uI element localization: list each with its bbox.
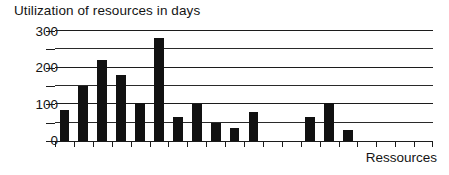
x-axis-ticks [55,142,433,147]
bar [135,103,145,142]
x-axis-tick [168,142,169,147]
x-axis-tick [414,142,415,147]
bar [154,38,164,141]
x-axis-tick [301,142,302,147]
y-axis-tick-stub-50 [46,123,55,124]
bar-series [55,31,433,141]
plot-area [55,31,433,141]
bar [173,117,183,141]
bar [343,130,353,141]
bar [249,112,259,141]
x-axis-tick [282,142,283,147]
x-axis-tick [432,142,433,147]
x-axis-tick [150,142,151,147]
y-axis-tick-stub-150 [46,86,55,87]
x-axis-tick [187,142,188,147]
bar [192,104,202,141]
x-axis-tick [357,142,358,147]
y-axis-tick-stub-100 [46,104,55,105]
y-axis-tick-stub-0 [46,141,55,142]
x-axis-tick [131,142,132,147]
x-axis-tick [93,142,94,147]
x-axis-tick [55,142,56,147]
bar-chart-figure: Utilization of resources in days 300 200… [0,0,449,175]
bar [305,117,315,141]
page-title: Utilization of resources in days [14,3,200,18]
bar [211,123,221,141]
x-axis-tick [74,142,75,147]
x-axis-tick [376,142,377,147]
bar [324,103,334,142]
x-axis-tick [339,142,340,147]
bar [116,75,126,141]
y-axis-tick-stub-300 [46,31,55,32]
y-axis-tick-stub-200 [46,68,55,69]
bar [97,60,107,141]
x-axis-tick [263,142,264,147]
bar [78,86,88,141]
x-axis-tick [395,142,396,147]
x-axis-tick [320,142,321,147]
x-axis-tick [206,142,207,147]
bar [230,128,240,141]
bar [60,110,70,141]
x-axis-tick [112,142,113,147]
x-axis-tick [244,142,245,147]
x-axis-tick [225,142,226,147]
x-axis-label: Ressources [366,150,437,165]
y-axis-tick-stub-250 [46,49,55,50]
